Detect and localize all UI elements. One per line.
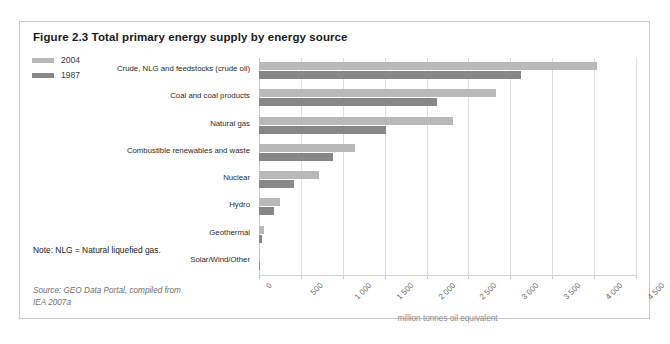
bar-group: Nuclear (259, 167, 636, 194)
x-axis-tick-label: 2 500 (478, 281, 499, 302)
bar-2004 (259, 89, 496, 97)
x-axis-tick-label: 3 500 (562, 281, 583, 302)
bar-group: Coal and coal products (259, 85, 636, 112)
bar-1987 (259, 126, 386, 134)
bar-2004 (259, 226, 264, 234)
x-axis-tick (427, 276, 428, 279)
bar-group: Hydro (259, 194, 636, 221)
bar-1987 (259, 235, 262, 243)
bar-group: Geothermal (259, 222, 636, 249)
plot-area: 05001 0001 5002 0002 5003 0003 5004 0004… (259, 58, 636, 276)
x-axis-tick-label: 1 000 (353, 281, 374, 302)
x-axis-tick (468, 276, 469, 279)
bar-1987 (259, 71, 521, 79)
x-axis-tick (385, 276, 386, 279)
x-axis-tick (510, 276, 511, 279)
x-axis-tick (343, 276, 344, 279)
bar-group: Combustible renewables and waste (259, 140, 636, 167)
x-axis-title: million tonnes oil equivalent (259, 314, 636, 323)
bar-1987 (259, 153, 333, 161)
bar-2004 (259, 253, 260, 261)
bar-1987 (259, 262, 260, 270)
gridline (636, 58, 637, 276)
bar-1987 (259, 180, 294, 188)
bar-1987 (259, 207, 274, 215)
bar-group: Natural gas (259, 113, 636, 140)
x-axis-tick-label: 4 500 (646, 281, 667, 302)
x-axis-tick (594, 276, 595, 279)
figure-panel: Figure 2.3 Total primary energy supply b… (19, 21, 650, 319)
bar-2004 (259, 144, 355, 152)
bar-group: Solar/Wind/Other (259, 249, 636, 276)
bar-2004 (259, 62, 597, 70)
x-axis-tick-label: 0 (264, 281, 274, 291)
bar-group: Crude, NLG and feedstocks (crude oil) (259, 58, 636, 85)
x-axis-tick-label: 3 000 (520, 281, 541, 302)
category-label: Coal and coal products (170, 90, 250, 101)
x-axis-tick (301, 276, 302, 279)
bar-2004 (259, 171, 319, 179)
category-label: Solar/Wind/Other (190, 254, 250, 265)
category-label: Hydro (229, 199, 250, 210)
bar-2004 (259, 117, 453, 125)
category-label: Crude, NLG and feedstocks (crude oil) (117, 63, 250, 74)
x-axis-tick-label: 4 000 (604, 281, 625, 302)
x-axis-tick (552, 276, 553, 279)
category-label: Combustible renewables and waste (127, 145, 250, 156)
x-axis-tick-label: 2 000 (436, 281, 457, 302)
category-label: Geothermal (209, 227, 250, 238)
x-axis-tick (636, 276, 637, 279)
x-axis-tick (259, 276, 260, 279)
bar-2004 (259, 198, 280, 206)
chart-plot-wrapper: 05001 0001 5002 0002 5003 0003 5004 0004… (20, 22, 651, 318)
x-axis-tick-label: 500 (309, 281, 325, 297)
category-label: Natural gas (210, 118, 250, 129)
x-axis-tick-label: 1 500 (395, 281, 416, 302)
bar-1987 (259, 98, 437, 106)
category-label: Nuclear (223, 172, 250, 183)
